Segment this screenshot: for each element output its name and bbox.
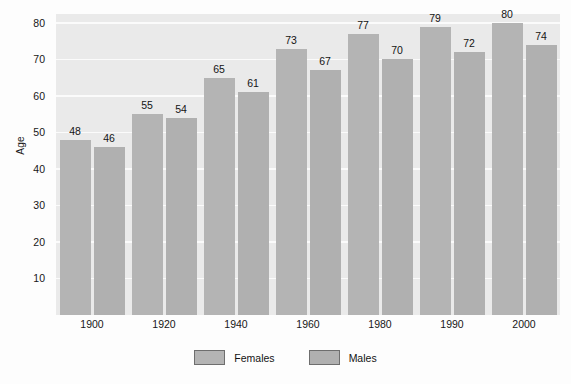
bar-females-1940[interactable] <box>204 78 235 315</box>
legend-item-females[interactable]: Females <box>194 350 274 365</box>
y-tick-label: 70 <box>33 53 45 65</box>
bar-females-1920[interactable] <box>132 114 163 315</box>
x-tick-label-1940: 1940 <box>224 318 247 330</box>
legend-swatch-icon <box>194 350 225 365</box>
bar-value-label: 67 <box>319 55 331 67</box>
bar-value-label: 46 <box>103 132 115 144</box>
bar-value-label: 70 <box>391 44 403 56</box>
bar-value-label: 80 <box>501 8 513 20</box>
bar-females-1900[interactable] <box>60 140 91 315</box>
y-tick-label: 60 <box>33 90 45 102</box>
bar-males-1940[interactable] <box>238 92 269 315</box>
y-tick-label: 40 <box>33 163 45 175</box>
bar-females-2000[interactable] <box>492 23 523 315</box>
y-tick-label: 80 <box>33 17 45 29</box>
plot-area: 4846555465617367777079728074 <box>56 12 560 315</box>
bar-females-1980[interactable] <box>348 34 379 315</box>
bars-layer: 4846555465617367777079728074 <box>56 12 560 315</box>
bar-males-1990[interactable] <box>454 52 485 315</box>
y-tick-label: 30 <box>33 199 45 211</box>
y-axis-tick-labels: 1020304050607080 <box>0 0 52 384</box>
legend-swatch-icon <box>309 350 340 365</box>
bar-value-label: 65 <box>213 63 225 75</box>
legend-label: Males <box>349 352 377 364</box>
x-axis-tick-labels: 1900192019401960198019902000 <box>56 318 560 338</box>
x-tick-label-1900: 1900 <box>80 318 103 330</box>
bar-value-label: 61 <box>247 77 259 89</box>
bar-males-1900[interactable] <box>94 147 125 315</box>
chart-legend: FemalesMales <box>0 350 571 365</box>
bar-males-1960[interactable] <box>310 70 341 315</box>
x-tick-label-1920: 1920 <box>152 318 175 330</box>
bar-females-1960[interactable] <box>276 49 307 315</box>
bar-value-label: 77 <box>357 19 369 31</box>
bar-males-1920[interactable] <box>166 118 197 315</box>
x-tick-label-1990: 1990 <box>440 318 463 330</box>
legend-label: Females <box>234 352 274 364</box>
bar-value-label: 79 <box>429 12 441 24</box>
x-tick-label-1980: 1980 <box>368 318 391 330</box>
y-tick-label: 10 <box>33 272 45 284</box>
bar-chart: Age 1020304050607080 4846555465617367777… <box>0 0 571 384</box>
x-tick-label-1960: 1960 <box>296 318 319 330</box>
bar-males-1980[interactable] <box>382 59 413 315</box>
y-tick-label: 50 <box>33 126 45 138</box>
bar-value-label: 54 <box>175 103 187 115</box>
bar-males-2000[interactable] <box>526 45 557 315</box>
y-tick-label: 20 <box>33 236 45 248</box>
bar-value-label: 72 <box>463 37 475 49</box>
legend-item-males[interactable]: Males <box>309 350 377 365</box>
bar-value-label: 74 <box>535 30 547 42</box>
bar-value-label: 48 <box>69 125 81 137</box>
bar-females-1990[interactable] <box>420 27 451 315</box>
bar-value-label: 73 <box>285 34 297 46</box>
bar-value-label: 55 <box>141 99 153 111</box>
x-tick-label-2000: 2000 <box>512 318 535 330</box>
